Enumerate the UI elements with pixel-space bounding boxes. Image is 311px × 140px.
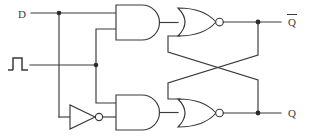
q-bar-output-label: Q: [288, 16, 296, 28]
logic-circuit-svg: D: [0, 0, 311, 140]
junction-d-branch: [57, 11, 62, 16]
circuit-diagram-canvas: D: [0, 0, 311, 140]
wire-clock-to-and-bottom: [96, 65, 116, 103]
junction-q-feedback: [256, 111, 261, 116]
nor-gate-bottom: [178, 99, 223, 127]
junction-clock-branch: [94, 63, 99, 68]
data-input-label: D: [18, 8, 26, 20]
inverter-gate: [70, 105, 103, 129]
wire-clock-to-and-top: [96, 29, 116, 65]
clock-input-pulse-icon: [8, 58, 28, 70]
and-gate-bottom: [116, 95, 160, 130]
and-gate-top: [116, 5, 160, 40]
junction-q-bar-feedback: [256, 20, 261, 25]
q-output-label: Q: [288, 107, 296, 119]
nor-gate-top: [178, 8, 223, 36]
q-bar-output-label-group: Q: [287, 15, 297, 29]
